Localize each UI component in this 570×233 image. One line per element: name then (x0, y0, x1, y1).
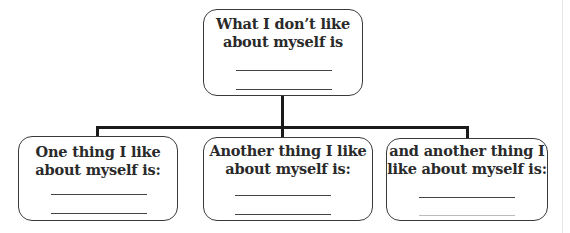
page-edge-line (562, 0, 563, 233)
child-box-and-another-thing: and another thing I like about myself is… (386, 138, 548, 221)
child-box-and-another-thing-line1: and another thing I (387, 142, 547, 160)
child-three-blank-line-1[interactable] (419, 197, 515, 198)
root-blank-line-2[interactable] (236, 89, 332, 90)
child-one-blank-line-2[interactable] (51, 213, 147, 214)
child-two-blank-line-2[interactable] (235, 214, 331, 215)
child-box-another-thing-line2: about myself is: (204, 160, 372, 178)
child-box-another-thing: Another thing I like about myself is: (203, 137, 373, 221)
root-box-title-line2: about myself is (204, 33, 362, 51)
child-box-and-another-thing-title: and another thing I like about myself is… (387, 142, 547, 178)
child-box-one-thing: One thing I like about myself is: (18, 136, 178, 221)
child-box-another-thing-line1: Another thing I like (204, 142, 372, 160)
child-two-blank-line-1[interactable] (235, 195, 331, 196)
root-blank-line-1[interactable] (236, 70, 332, 71)
child-box-one-thing-title: One thing I like about myself is: (19, 143, 177, 179)
child-box-one-thing-line2: about myself is: (19, 161, 177, 179)
child-one-blank-line-1[interactable] (51, 194, 147, 195)
child-box-and-another-thing-line2: like about myself is: (387, 160, 547, 178)
child-box-another-thing-title: Another thing I like about myself is: (204, 142, 372, 178)
child-three-blank-line-2[interactable] (419, 215, 515, 216)
root-box: What I don’t like about myself is (203, 9, 363, 96)
child-box-one-thing-line1: One thing I like (19, 143, 177, 161)
root-box-title: What I don’t like about myself is (204, 15, 362, 51)
root-box-title-line1: What I don’t like (204, 15, 362, 33)
connector-root-stem (281, 95, 284, 128)
